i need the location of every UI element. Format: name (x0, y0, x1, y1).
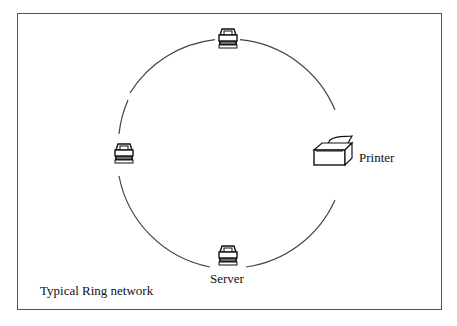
printer-label: Printer (359, 150, 394, 166)
server-icon (219, 246, 237, 265)
diagram-caption: Typical Ring network (40, 283, 153, 299)
ring-cable (115, 40, 335, 267)
server-label: Server (210, 271, 244, 287)
workstation-icon (115, 144, 133, 163)
printer-icon (314, 136, 352, 165)
workstation-icon (219, 29, 237, 48)
